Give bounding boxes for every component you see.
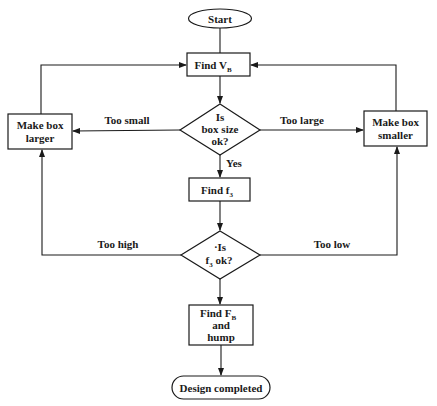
box-size-decision: Is box size ok? (180, 104, 260, 155)
find-vb-sub: B (227, 66, 232, 74)
done-node: Design completed (172, 376, 270, 399)
find-fb-line1-sub: B (231, 314, 236, 322)
start-label: Start (208, 13, 232, 25)
find-fb-line3: hump (207, 331, 235, 343)
find-fb-line2: and (212, 319, 230, 331)
done-label: Design completed (180, 382, 263, 394)
find-f3-label: Find f (201, 184, 230, 196)
f3-decision: ·Is f3 ok? (181, 231, 260, 279)
make-larger-line1: Make box (17, 119, 64, 131)
box-ok-line2: box size (202, 123, 239, 135)
flowchart: Start Find VB Is box size ok? Make box l… (0, 0, 437, 406)
edge-boxok-larger (73, 130, 180, 131)
box-ok-line3: ok? (211, 135, 228, 147)
find-f3-sub: 3 (229, 191, 233, 199)
label-yes: Yes (226, 157, 243, 169)
make-smaller-line1: Make box (372, 116, 419, 128)
f3-ok-line1: ·Is (214, 241, 227, 253)
label-too-small: Too small (104, 114, 149, 126)
start-node: Start (189, 9, 252, 28)
find-fb-node: Find FB and hump (189, 305, 253, 345)
find-vb-node: Find VB (187, 53, 250, 76)
make-smaller-node: Make box smaller (364, 111, 427, 146)
edge-larger-findvb (41, 65, 186, 114)
make-larger-line2: larger (26, 132, 55, 144)
find-vb-label: Find V (194, 59, 227, 71)
make-larger-node: Make box larger (8, 114, 72, 149)
f3-ok-line2-rest: ok? (213, 254, 233, 266)
label-too-large: Too large (280, 114, 324, 126)
box-ok-line1: Is (216, 111, 225, 123)
label-too-low: Too low (314, 238, 351, 250)
label-too-high: Too high (98, 238, 139, 250)
edge-smaller-findvb (251, 65, 396, 111)
find-fb-line1: Find F (200, 307, 232, 319)
find-f3-node: Find f3 (189, 178, 250, 201)
make-smaller-line2: smaller (378, 129, 413, 141)
